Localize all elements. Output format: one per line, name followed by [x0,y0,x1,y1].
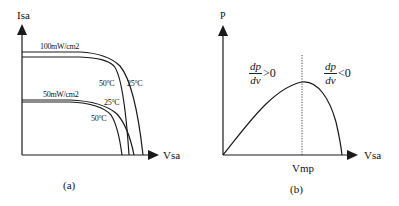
p-axis-arrow-icon [218,25,228,36]
caption-b: (b) [290,184,303,195]
vsa-axis-label-a: Vsa [163,150,180,161]
annotation-right-den: dv [325,74,335,86]
temp-label-high-25: 25°C [127,80,142,88]
annotation-right-op: <0 [338,66,351,81]
vsa-axis-label-b: Vsa [364,150,381,161]
annotation-left-den: dv [250,74,260,86]
curve-50mw-50c [22,102,122,155]
irradiance-label-100: 100mW/cm2 [40,43,79,51]
isa-axis-arrow-icon [17,24,27,35]
isa-axis-label: Isa [17,10,30,21]
annotation-dpdv-positive: dp dv >0 [249,61,276,86]
temp-label-high-50: 50°C [99,80,114,88]
irradiance-label-50: 50mW/cm2 [43,91,78,99]
annotation-right-num: dp [324,61,337,74]
vsa-axis-arrow-icon [148,150,159,160]
p-axis-label: P [220,11,226,21]
pv-curve [223,82,342,155]
annotation-left-num: dp [249,61,262,74]
temp-label-low-25: 25°C [104,99,119,107]
caption-a: (a) [63,180,75,191]
pv-plot [218,25,358,160]
diagram-canvas [0,0,399,206]
curve-50mw-25c [22,100,134,155]
annotation-dpdv-negative: dp dv <0 [324,61,351,86]
temp-label-low-50: 50°C [91,115,106,123]
vsa-axis-b-arrow-icon [347,150,358,160]
annotation-left-op: >0 [263,66,276,81]
vmp-tick-label: Vmp [292,163,314,174]
iv-plot [17,24,159,160]
